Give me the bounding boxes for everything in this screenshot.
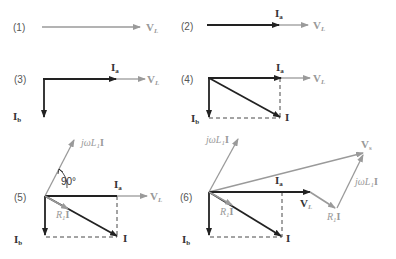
panel-label: (3) bbox=[14, 74, 26, 85]
ia-label: Ia bbox=[111, 61, 119, 75]
i-label: I bbox=[285, 111, 289, 123]
i-label: I bbox=[123, 232, 127, 244]
vs-label: Vs bbox=[361, 138, 372, 152]
vl-label: VL bbox=[313, 19, 325, 33]
panel-5: (5) jωL1I 90° Ia VL R1I Ib I bbox=[14, 137, 162, 247]
panel-1: (1) VL bbox=[13, 21, 158, 35]
ib-label: Ib bbox=[13, 110, 21, 124]
phasor-diagram: (1) VL (2) Ia VL (3) Ia VL Ib (4) Ia VL … bbox=[0, 0, 396, 259]
vl-label: VL bbox=[313, 72, 325, 86]
r1i-vector bbox=[45, 196, 68, 209]
ia-label: Ia bbox=[276, 61, 284, 75]
panel-label: (5) bbox=[14, 192, 26, 203]
vl-label: VL bbox=[147, 73, 159, 87]
ib-label: Ib bbox=[182, 233, 190, 247]
vl-label: VL bbox=[146, 21, 158, 35]
jwl1i-tail-label: jωL1I bbox=[353, 176, 378, 189]
r1i-vector bbox=[209, 192, 232, 205]
ia-label: Ia bbox=[275, 7, 283, 21]
panel-2: (2) Ia VL bbox=[181, 7, 325, 33]
vs-vector bbox=[209, 153, 363, 192]
vl-label: VL bbox=[150, 190, 162, 204]
r1i-label: R1I bbox=[55, 209, 70, 222]
angle-label: 90° bbox=[61, 176, 76, 187]
r1i-tail-label: R1I bbox=[326, 211, 341, 224]
panel-label: (1) bbox=[13, 22, 25, 33]
ib-label: Ib bbox=[14, 233, 22, 247]
panel-label: (6) bbox=[180, 192, 192, 203]
r1i-label: R1I bbox=[219, 206, 234, 219]
jwl1i-vector bbox=[45, 140, 74, 196]
i-vector bbox=[209, 78, 280, 117]
panel-label: (4) bbox=[181, 74, 193, 85]
panel-3: (3) Ia VL Ib bbox=[13, 61, 159, 124]
jwl1i-label: jωL1I bbox=[204, 134, 229, 147]
ib-label: Ib bbox=[191, 112, 199, 126]
panel-label: (2) bbox=[181, 21, 193, 32]
jwl1i-label: jωL1I bbox=[79, 137, 104, 150]
i-label: I bbox=[286, 232, 290, 244]
ia-label: Ia bbox=[114, 178, 122, 192]
panel-4: (4) Ia VL Ib I bbox=[181, 61, 325, 126]
ia-label: Ia bbox=[275, 174, 283, 188]
panel-6: (6) jωL1I Vs Ia jωL1I VL R1I R1I Ib I bbox=[180, 134, 378, 247]
r1i-vector-tail bbox=[310, 192, 335, 208]
vl-label: VL bbox=[300, 197, 312, 211]
